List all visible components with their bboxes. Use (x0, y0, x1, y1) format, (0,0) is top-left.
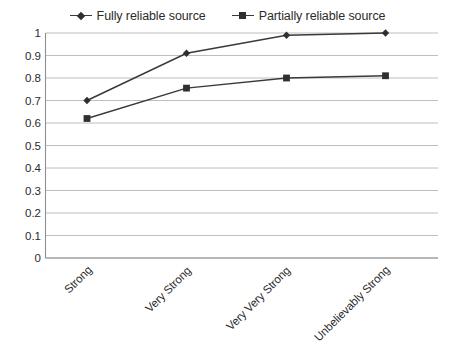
x-axis-tick-label: Unbelievably Strong (312, 264, 392, 344)
x-axis-tick-label: Strong (62, 264, 94, 296)
x-axis-tick-label: Very Strong (143, 264, 193, 314)
x-axis-tick-label: Very Very Strong (224, 264, 292, 332)
